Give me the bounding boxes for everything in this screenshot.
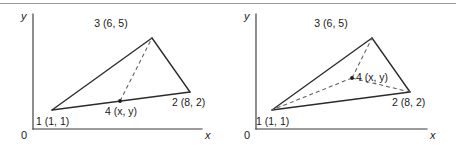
x-axis-label: x <box>204 129 211 141</box>
figure-root: y x 0 3 (6, 5) 2 (8, 2) 1 (1, 1) 4 (x, y… <box>0 0 456 152</box>
dashed-segment-4-3 <box>120 38 152 101</box>
triangle-edge-2-3 <box>152 38 190 92</box>
point-4-dot <box>118 99 122 103</box>
x-axis-label: x <box>429 129 436 141</box>
origin-label: 0 <box>244 129 250 141</box>
vertex-1-label: 1 (1, 1) <box>36 115 69 127</box>
y-axis-label: y <box>243 10 251 22</box>
vertex-1-label: 1 (1, 1) <box>256 115 289 127</box>
vertex-2-label: 2 (8, 2) <box>392 96 425 108</box>
panel-point-inside: y x 0 3 (6, 5) 2 (8, 2) 1 (1, 1) 4 (x, y… <box>228 0 456 152</box>
vertex-2-label: 2 (8, 2) <box>172 96 205 108</box>
point-4-dot <box>350 76 354 80</box>
panel-point-on-edge: y x 0 3 (6, 5) 2 (8, 2) 1 (1, 1) 4 (x, y… <box>0 0 228 152</box>
vertex-3-label: 3 (6, 5) <box>94 17 127 29</box>
y-axis-label: y <box>20 10 28 22</box>
origin-label: 0 <box>21 129 27 141</box>
vertex-3-label: 3 (6, 5) <box>314 17 347 29</box>
point-4-label: 4 (x, y) <box>105 105 137 117</box>
point-4-label: 4 (x, y) <box>356 71 388 83</box>
triangle-edge-2-3 <box>372 38 410 92</box>
